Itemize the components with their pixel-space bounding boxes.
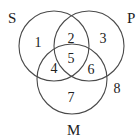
set-label-p: P xyxy=(127,10,135,26)
region-4-s-and-m: 4 xyxy=(51,61,58,76)
set-label-m: M xyxy=(67,122,80,138)
region-3-p-only: 3 xyxy=(100,31,107,46)
venn-diagram: S P M 1 2 3 4 5 6 7 8 xyxy=(0,0,140,138)
region-5-all-three: 5 xyxy=(68,51,75,66)
region-2-s-and-p: 2 xyxy=(68,31,75,46)
region-1-s-only: 1 xyxy=(35,35,42,50)
region-8-outside: 8 xyxy=(114,81,121,96)
region-6-p-and-m: 6 xyxy=(88,62,95,77)
region-7-m-only: 7 xyxy=(68,90,75,105)
set-label-s: S xyxy=(8,10,16,26)
